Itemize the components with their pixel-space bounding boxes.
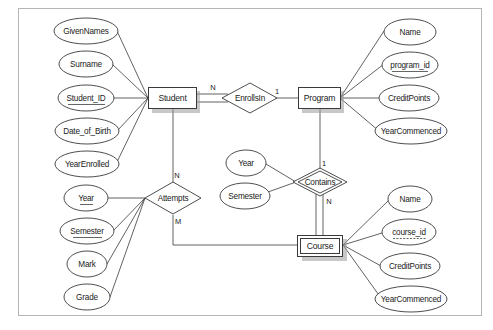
attribute-course-name[interactable]: Name	[388, 186, 432, 212]
attribute-program-creditpoints[interactable]: CreditPoints	[379, 85, 439, 111]
entity-label: Course	[307, 241, 334, 251]
attribute-surname[interactable]: Surname	[59, 51, 113, 77]
entity-label: Program	[304, 93, 336, 103]
cardinality-enrollsin-program: 1	[275, 87, 279, 96]
attribute-label: CreditPoints	[388, 94, 430, 103]
attribute-attempts-semester[interactable]: Semester	[60, 218, 114, 244]
attribute-label: Semester	[228, 192, 262, 201]
attribute-attempts-year[interactable]: Year	[64, 185, 108, 211]
attribute-label: course_id	[392, 228, 426, 237]
attribute-label: Date_of_Birth	[63, 127, 111, 136]
attribute-student-id[interactable]: Student_ID	[58, 85, 114, 111]
attribute-label: Student_ID	[67, 94, 106, 103]
attribute-label: Year	[238, 159, 254, 168]
attribute-label: Surname	[70, 60, 102, 69]
attribute-label: GivenNames	[63, 27, 108, 36]
attribute-course-creditpoints[interactable]: CreditPoints	[380, 253, 440, 279]
relationship-label: Attempts	[158, 194, 189, 203]
attribute-course-id[interactable]: course_id	[382, 219, 436, 245]
attribute-label: CreditPoints	[389, 262, 431, 271]
attribute-label: Grade	[76, 293, 98, 302]
attribute-attempts-grade[interactable]: Grade	[64, 284, 110, 310]
attribute-label: YearCommenced	[381, 295, 442, 304]
attribute-program-name[interactable]: Name	[384, 19, 436, 45]
attribute-label: YearEnrolled	[65, 160, 110, 169]
relationship-label: EnrollsIn	[235, 94, 266, 103]
relationship-label: Contains	[305, 178, 336, 187]
attribute-contains-semester[interactable]: Semester	[220, 183, 270, 209]
cardinality-student-enrollsin: N	[210, 83, 215, 92]
attribute-label: program_id	[390, 61, 430, 70]
attribute-givennames[interactable]: GivenNames	[54, 18, 118, 44]
attribute-contains-year[interactable]: Year	[226, 150, 266, 176]
attribute-attempts-mark[interactable]: Mark	[67, 251, 107, 277]
attribute-course-yearcommenced[interactable]: YearCommenced	[375, 286, 447, 312]
attribute-label: Mark	[78, 260, 97, 269]
cardinality-program-contains: 1	[322, 159, 326, 168]
attribute-yearenrolled[interactable]: YearEnrolled	[55, 151, 119, 177]
er-diagram: Student Program Course EnrollsIn Attempt…	[0, 0, 493, 330]
entity-program[interactable]: Program	[299, 88, 345, 114]
attribute-label: YearCommenced	[381, 127, 442, 136]
cardinality-student-attempts: N	[174, 171, 179, 180]
entity-student[interactable]: Student	[149, 88, 201, 114]
attribute-date-of-birth[interactable]: Date_of_Birth	[55, 118, 119, 144]
attribute-label: Year	[78, 194, 94, 203]
cardinality-contains-course: N	[326, 197, 331, 206]
entity-label: Student	[158, 93, 187, 103]
attribute-label: Name	[399, 28, 421, 37]
attribute-program-yearcommenced[interactable]: YearCommenced	[375, 118, 447, 144]
attribute-program-id[interactable]: program_id	[382, 52, 438, 78]
attribute-label: Semester	[70, 227, 104, 236]
entity-course-weak[interactable]: Course	[298, 236, 348, 262]
attribute-label: Name	[399, 195, 421, 204]
cardinality-attempts-course: M	[175, 217, 181, 226]
